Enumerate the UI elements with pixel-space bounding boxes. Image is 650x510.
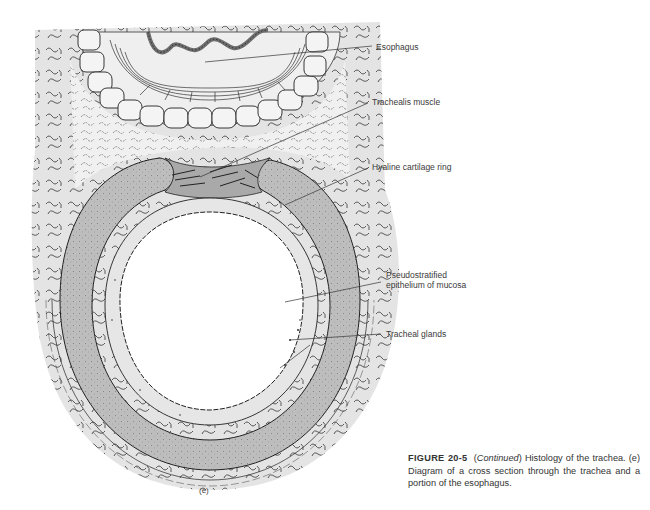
figure-caption: FIGURE 20-5 (Continued) Histology of the…	[408, 452, 640, 490]
label-tracheal-glands: Tracheal glands	[386, 329, 446, 339]
label-pseudostratified-epithelium: Pseudostratified epithelium of mucosa	[386, 270, 476, 290]
label-esophagus: Esophagus	[376, 42, 419, 52]
caption-continued: Continued	[477, 453, 519, 463]
label-trachealis-muscle: Trachealis muscle	[372, 97, 440, 107]
label-hyaline-cartilage-ring: Hyaline cartilage ring	[372, 162, 451, 172]
trachea-cross-section-diagram	[0, 0, 650, 510]
figure-number: FIGURE 20-5	[408, 453, 468, 463]
panel-label: (e)	[199, 486, 209, 495]
